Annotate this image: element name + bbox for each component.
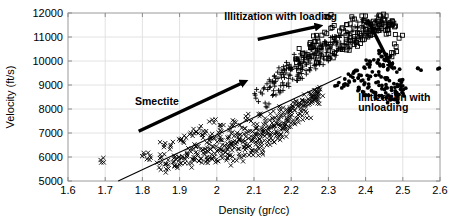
- xtick-label: 1.9: [172, 184, 187, 196]
- data-point-dot: [374, 73, 378, 77]
- data-point-dot: [380, 55, 384, 59]
- data-point-dot: [367, 85, 371, 89]
- data-point-dot: [342, 83, 346, 87]
- xtick-label: 2.4: [358, 184, 373, 196]
- scatter-chart-figure: 1.61.71.81.922.12.22.32.42.52.6500060007…: [0, 0, 454, 224]
- illitization-loading-label: Illitization with loading: [224, 10, 337, 22]
- data-point-dot: [416, 67, 420, 71]
- data-point-dot: [379, 75, 383, 79]
- data-point-dot: [353, 79, 357, 83]
- data-point-dot: [356, 76, 360, 80]
- data-point-dot: [380, 84, 384, 88]
- data-point-dot: [377, 70, 381, 74]
- data-point-dot: [352, 70, 356, 74]
- data-point-dot: [404, 86, 408, 90]
- data-point-dot: [333, 84, 337, 88]
- xtick-label: 1.7: [98, 184, 113, 196]
- data-point-dot: [393, 66, 397, 70]
- data-point-dot: [368, 60, 372, 64]
- data-point-dot: [381, 63, 385, 67]
- y-axis-title: Velocity (ft/s): [4, 66, 16, 129]
- data-point-dot: [386, 68, 390, 72]
- ytick-label: 6000: [39, 151, 63, 163]
- xtick-label: 2: [214, 184, 220, 196]
- ytick-label: 5000: [39, 175, 63, 187]
- data-point-dot: [377, 52, 381, 56]
- xtick-label: 1.8: [135, 184, 150, 196]
- ytick-label: 11000: [33, 31, 63, 43]
- xtick-label: 2.6: [432, 184, 447, 196]
- ytick-label: 7000: [39, 127, 63, 139]
- ytick-label: 8000: [39, 103, 63, 115]
- xtick-label: 2.3: [321, 184, 336, 196]
- ytick-label: 12000: [32, 7, 63, 19]
- data-point-dot: [376, 80, 380, 84]
- data-point-dot: [372, 58, 376, 62]
- data-point-dot: [384, 83, 388, 87]
- data-point-dot: [347, 80, 351, 84]
- illitization-unloading-label-line2: unloading: [358, 101, 408, 113]
- data-point-dot: [392, 82, 396, 86]
- xtick-label: 2.1: [246, 184, 261, 196]
- data-point-dot: [370, 70, 374, 74]
- data-point-dot: [365, 73, 369, 77]
- data-point-dot: [376, 58, 380, 62]
- ytick-label: 9000: [39, 79, 63, 91]
- data-point-dot: [343, 77, 347, 81]
- data-point-dot: [400, 80, 404, 84]
- data-point-dot: [398, 67, 402, 71]
- xtick-label: 2.2: [284, 184, 299, 196]
- data-point-dot: [346, 72, 350, 76]
- data-point-dot: [378, 62, 382, 66]
- data-point-dot: [364, 58, 368, 62]
- smectite-label: Smectite: [135, 95, 179, 107]
- data-point-dot: [386, 76, 390, 80]
- data-point-dot: [362, 65, 366, 69]
- data-point-dot: [369, 74, 373, 78]
- xtick-label: 2.5: [395, 184, 410, 196]
- data-point-dot: [363, 81, 367, 85]
- data-point-dot: [389, 86, 393, 90]
- chart-svg: 1.61.71.81.922.12.22.32.42.52.6500060007…: [0, 0, 454, 224]
- x-axis-title: Density (gr/cc): [219, 204, 290, 216]
- data-point-dot: [395, 70, 399, 74]
- data-point-dot: [436, 67, 440, 71]
- ytick-label: 10000: [32, 55, 63, 67]
